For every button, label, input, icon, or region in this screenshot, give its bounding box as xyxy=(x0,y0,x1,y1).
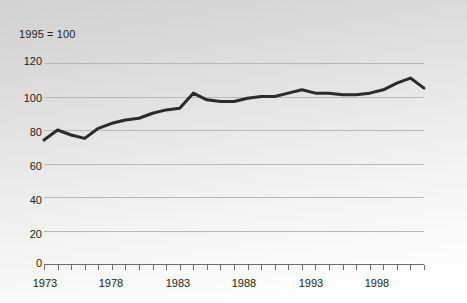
line-chart-figure: 1995 = 100 120 100 80 60 40 20 0 1973 19… xyxy=(0,0,467,303)
gridlines xyxy=(44,64,424,232)
x-axis-tick-marks xyxy=(45,265,425,270)
plot-area xyxy=(0,0,467,303)
